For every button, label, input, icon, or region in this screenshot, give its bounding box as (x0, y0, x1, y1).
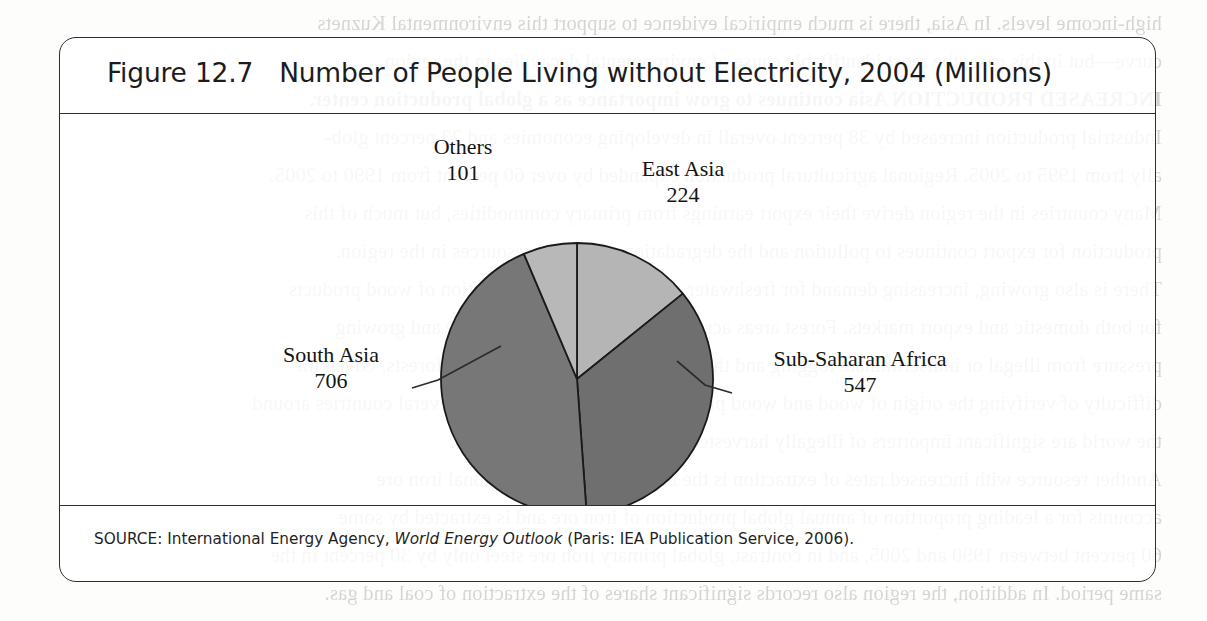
pie-label-sub-saharan-africa-value: 547 (735, 372, 985, 397)
bleed-text-line: high-income levels. In Asia, there is mu… (52, 12, 1162, 35)
pie-label-others-name: Others (434, 134, 493, 159)
pie-label-east-asia-value: 224 (616, 182, 750, 207)
pie-label-east-asia: East Asia 224 (616, 156, 750, 207)
pie-chart: Others 101 East Asia 224 South Asia 706 … (60, 114, 1155, 505)
pie-label-south-asia: South Asia 706 (256, 342, 406, 393)
figure-title-bar: Figure 12.7Number of People Living witho… (60, 38, 1155, 114)
figure-source-bar: SOURCE: International Energy Agency, Wor… (60, 505, 1155, 581)
pie-chart-svg (60, 114, 1154, 505)
figure-source: SOURCE: International Energy Agency, Wor… (94, 530, 854, 548)
figure-title: Figure 12.7Number of People Living witho… (107, 57, 1052, 88)
figure-title-text: Number of People Living without Electric… (279, 57, 1052, 88)
figure-source-suffix: (Paris: IEA Publication Service, 2006). (562, 530, 854, 548)
pie-label-south-asia-name: South Asia (283, 342, 379, 367)
pie-label-others: Others 101 (413, 134, 513, 185)
figure-source-publication: World Energy Outlook (395, 530, 563, 548)
pie-label-sub-saharan-africa: Sub-Saharan Africa 547 (735, 346, 985, 397)
figure-box: Figure 12.7Number of People Living witho… (59, 37, 1156, 582)
pie-slice-group (441, 243, 713, 505)
pie-label-others-value: 101 (413, 160, 513, 185)
pie-label-sub-saharan-africa-name: Sub-Saharan Africa (774, 346, 947, 371)
bleed-text-line: same period. In addition, the region als… (52, 582, 1162, 605)
figure-number: Figure 12.7 (107, 57, 253, 88)
scanned-page: high-income levels. In Asia, there is mu… (0, 0, 1207, 621)
figure-source-prefix: SOURCE: International Energy Agency, (94, 530, 395, 548)
pie-label-south-asia-value: 706 (256, 368, 406, 393)
pie-label-east-asia-name: East Asia (642, 156, 725, 181)
